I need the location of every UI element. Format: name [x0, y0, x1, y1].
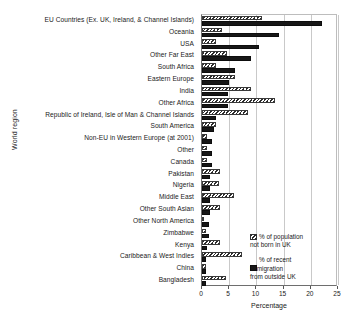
bar-hatched	[202, 75, 235, 80]
category-label: Canada	[171, 158, 194, 166]
tick-mark	[283, 286, 284, 289]
category-label: Other Africa	[159, 99, 194, 107]
category-label: USA	[180, 40, 194, 48]
category-label: Other Far East	[150, 51, 194, 59]
legend-label: % of recent immigration from outside UK	[250, 256, 296, 279]
bar-hatched	[202, 217, 204, 222]
bar-hatched	[202, 169, 220, 174]
bar-solid	[202, 104, 228, 109]
bar-hatched	[202, 193, 234, 198]
bar-solid	[202, 45, 259, 50]
tick-label: 15	[279, 290, 286, 297]
bar-solid	[202, 186, 210, 191]
legend-swatch-hatched	[250, 234, 257, 241]
bar-solid	[202, 222, 209, 227]
category-label: Eastern Europe	[147, 75, 194, 83]
bar-hatched	[202, 276, 226, 281]
bar-hatched	[202, 205, 220, 210]
bar-hatched	[202, 16, 262, 21]
bar-hatched	[202, 98, 275, 103]
tick-label: 10	[252, 290, 259, 297]
bar-hatched	[202, 146, 207, 151]
bar-solid	[202, 257, 206, 262]
bar-hatched	[202, 134, 207, 139]
category-label-list: EU Countries (Ex. UK, Ireland, & Channel…	[0, 14, 197, 286]
category-label: EU Countries (Ex. UK, Ireland, & Channel…	[45, 16, 194, 24]
bar-solid	[202, 198, 210, 203]
bar-solid	[202, 116, 216, 121]
tick-label: 0	[199, 290, 203, 297]
category-label: Pakistan	[168, 170, 194, 178]
legend: % of population not born in UK% of recen…	[250, 233, 336, 288]
category-label: Kenya	[175, 241, 194, 249]
category-label: Non-EU in Western Europe (at 2001)	[84, 134, 194, 142]
bar-hatched	[202, 39, 216, 44]
x-axis-title: Percentage	[201, 302, 337, 309]
legend-entry: % of recent immigration from outside UK	[250, 256, 336, 281]
bar-solid	[202, 33, 279, 38]
bar-hatched	[202, 240, 220, 245]
bar-solid	[202, 269, 206, 274]
bar-hatched	[202, 110, 248, 115]
bar-solid	[202, 175, 210, 180]
category-label: India	[179, 87, 194, 95]
bar-solid	[202, 56, 251, 61]
category-label: Bangladesh	[159, 276, 194, 284]
category-label: Zimbabwe	[163, 229, 194, 237]
bar-hatched	[202, 181, 219, 186]
bar-hatched	[202, 252, 242, 257]
bar-hatched	[202, 229, 206, 234]
gridline	[338, 15, 339, 285]
bar-solid	[202, 246, 207, 251]
category-label: Caribbean & West Indies	[120, 252, 194, 260]
tick-mark	[337, 286, 338, 289]
bar-solid	[202, 210, 210, 215]
bar-hatched	[202, 87, 251, 92]
legend-entry: % of population not born in UK	[250, 233, 336, 249]
bar-hatched	[202, 264, 206, 269]
bar-solid	[202, 68, 235, 73]
bar-solid	[202, 139, 212, 144]
bar-hatched	[202, 158, 207, 163]
bar-hatched	[202, 122, 216, 127]
bar-solid	[202, 92, 228, 97]
bar-solid	[202, 234, 209, 239]
category-label: Other South Asian	[140, 205, 194, 213]
category-label: Middle East	[159, 193, 194, 201]
bar-solid	[202, 163, 212, 168]
tick-mark	[228, 286, 229, 289]
bar-solid	[202, 127, 214, 132]
tick-mark	[255, 286, 256, 289]
category-label: Other	[177, 146, 194, 154]
category-label: South Africa	[158, 63, 194, 71]
category-label: China	[177, 264, 194, 272]
tick-label: 25	[333, 290, 340, 297]
tick-mark	[201, 286, 202, 289]
bar-solid	[202, 80, 229, 85]
tick-label: 5	[226, 290, 230, 297]
bar-solid	[202, 21, 322, 26]
bar-hatched	[202, 51, 227, 56]
bar-hatched	[202, 28, 222, 33]
bar-solid	[202, 281, 206, 286]
category-label: South America	[150, 122, 194, 130]
tick-label: 20	[306, 290, 313, 297]
bar-solid	[202, 151, 212, 156]
category-label: Nigeria	[173, 181, 194, 189]
tick-mark	[310, 286, 311, 289]
x-axis-ticks: 0510152025	[201, 286, 337, 300]
category-label: Other North America	[133, 217, 194, 225]
bar-chart: World region EU Countries (Ex. UK, Irela…	[0, 0, 349, 324]
category-label: Republic of Ireland, Isle of Man & Chann…	[45, 111, 194, 119]
legend-swatch-solid	[250, 265, 257, 272]
bar-hatched	[202, 63, 216, 68]
category-label: Oceania	[169, 28, 194, 36]
legend-label: % of population not born in UK	[250, 233, 303, 248]
